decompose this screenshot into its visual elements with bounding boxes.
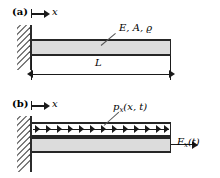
fixed-support-wall-a: [17, 25, 32, 70]
x-axis-arrowhead-icon: [44, 102, 50, 110]
material-properties-label: E, A, ϱ: [119, 22, 152, 33]
panel-b: (b) x px(x, t) Fx(t): [0, 89, 220, 178]
force-subscript: x: [184, 141, 188, 149]
force-symbol: F: [177, 136, 184, 147]
distributed-load-label: px(x, t): [113, 101, 147, 112]
dim-tick-right: [170, 69, 171, 80]
panel-b-label: (b): [12, 98, 28, 109]
end-force-label: Fx(t): [177, 136, 200, 147]
wall-hatching: [17, 25, 30, 70]
load-subscript: x: [119, 106, 123, 114]
panel-a-label: (a): [12, 6, 28, 17]
x-axis-arrowhead-icon: [44, 10, 50, 18]
bar-element-b: [32, 137, 171, 153]
length-dimension-line: [27, 70, 175, 79]
distributed-load-arrows: [33, 125, 169, 134]
wall-hatching: [17, 116, 30, 172]
length-label: L: [95, 57, 102, 68]
dim-tick-left: [31, 69, 32, 80]
dim-bar: [32, 74, 170, 75]
x-axis-label: x: [52, 6, 58, 17]
force-arguments: (t): [188, 136, 200, 147]
load-arguments: (x, t): [123, 101, 147, 112]
panel-a: (a) x E, A, ϱ L: [0, 0, 220, 89]
bar-element-a: [32, 39, 171, 56]
fixed-support-wall-b: [17, 116, 32, 172]
x-axis-label: x: [52, 98, 58, 109]
